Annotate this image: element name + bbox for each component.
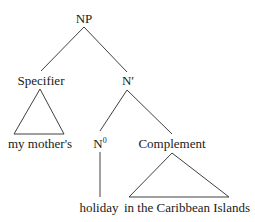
node-specifier-label: Specifier <box>18 73 65 88</box>
node-np-label: NP <box>76 11 93 26</box>
edge-np-specifier <box>41 27 84 71</box>
node-head: N0 <box>93 137 106 150</box>
node-nbar: N′ <box>122 74 134 87</box>
node-complement-label: Complement <box>138 136 205 151</box>
edge-nbar-complement <box>127 90 172 134</box>
node-specifier: Specifier <box>18 74 65 87</box>
leaf-complement: in the Caribbean Islands <box>124 201 250 214</box>
leaf-complement-text: in the Caribbean Islands <box>124 200 250 215</box>
tree-branches <box>0 0 255 222</box>
node-head-label: N <box>93 136 102 151</box>
node-np: NP <box>76 12 93 25</box>
leaf-head: holiday <box>80 201 119 214</box>
leaf-head-text: holiday <box>80 200 119 215</box>
leaf-specifier-text: my mother's <box>8 136 72 151</box>
edge-nbar-head <box>100 90 127 131</box>
edge-np-nbar <box>84 27 127 72</box>
specifier-triangle <box>14 89 64 134</box>
node-complement: Complement <box>138 137 205 150</box>
node-nbar-label: N′ <box>122 73 134 88</box>
node-head-superscript: 0 <box>103 136 107 145</box>
complement-triangle <box>129 153 229 197</box>
leaf-specifier: my mother's <box>8 137 72 150</box>
